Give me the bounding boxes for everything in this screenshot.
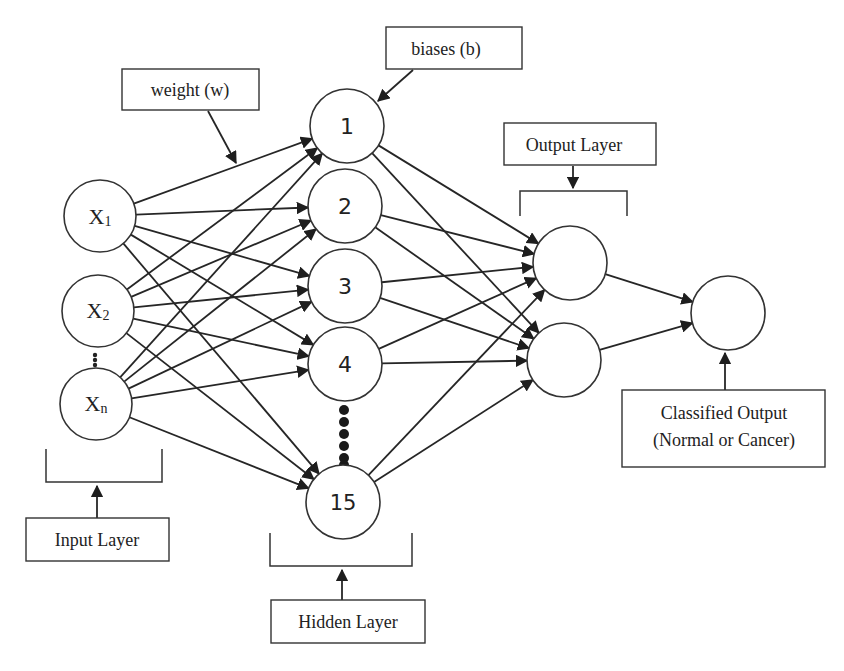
output-node-1 [533,226,607,300]
input-node-x1: X1 [64,180,136,252]
hidden-node-4: 4 [308,327,382,401]
connection-arrow [605,274,692,302]
svg-text:Input Layer: Input Layer [55,530,139,550]
svg-text:weight (w): weight (w) [151,80,229,101]
biases-pointer-arrow [378,70,413,101]
svg-text:Output Layer: Output Layer [526,135,622,155]
connection-arrow [375,227,533,338]
input-layer-label-box: Input Layer [26,518,169,561]
svg-text:biases (b): biases (b) [411,39,480,60]
weight-label-box: weight (w) [122,69,259,110]
connection-arrow [136,208,308,215]
hidden-node-2: 2 [308,169,382,243]
svg-text:2: 2 [338,194,352,219]
hidden-node-15: 15 [306,465,380,539]
connection-arrow [379,278,536,349]
hidden-layer-label-box: Hidden Layer [271,600,425,643]
classified-output-label-box: Classified Output (Normal or Cancer) [622,390,825,467]
svg-text:1: 1 [340,114,354,139]
svg-text:Hidden Layer: Hidden Layer [298,612,397,632]
input-layer-bracket [46,449,162,482]
svg-text:4: 4 [338,352,352,377]
connection-arrow [368,290,544,475]
input-node-x2: X2 [62,275,134,347]
svg-text:(Normal or Cancer): (Normal or Cancer) [653,430,795,451]
output-node-2 [527,323,601,397]
output-layer-label-box: Output Layer [504,123,656,165]
connection-arrow [382,267,533,282]
final-output-node [691,276,765,350]
input-node-xn: Xn [60,368,132,440]
connection-arrow [374,380,533,482]
svg-text:15: 15 [330,491,357,515]
hidden-node-3: 3 [308,249,382,323]
connection-arrow [382,361,527,364]
biases-label-box: biases (b) [386,27,522,69]
svg-text:Classified Output: Classified Output [661,403,788,423]
neural-network-diagram: X1 X2 Xn 1 2 3 4 15 [0,0,844,671]
connection-arrow [600,323,693,350]
connection-arrow [135,226,310,276]
connection-arrow [127,148,317,289]
connection-arrow [129,302,312,389]
connection-arrow [126,333,313,479]
connection-arrow [129,417,308,488]
output-layer-bracket [520,191,627,216]
weight-pointer-arrow [208,111,236,163]
svg-text:3: 3 [338,274,352,299]
connection-arrow [133,319,309,357]
hidden-node-1: 1 [310,89,384,163]
hidden-ellipsis [339,405,349,470]
connection-arrow [380,298,529,348]
